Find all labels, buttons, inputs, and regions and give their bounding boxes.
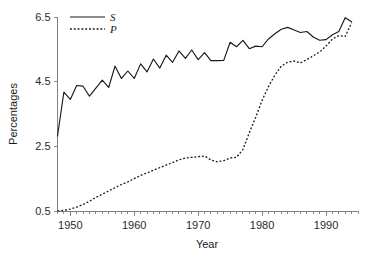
chart-legend: S P xyxy=(70,11,117,35)
data-series-p-line xyxy=(58,23,352,211)
y-axis-tick-group xyxy=(54,17,58,211)
x-axis-tick-label: 1980 xyxy=(250,219,274,231)
x-axis-tick-label: 1970 xyxy=(186,219,210,231)
y-axis-tick-label: 2.5 xyxy=(35,140,50,152)
x-axis-tick-label: 1990 xyxy=(314,219,338,231)
chart-figure: 0.52.54.56.5 19501960197019801990 S P Ye… xyxy=(0,0,372,263)
y-axis-title: Percentages xyxy=(7,83,19,145)
y-axis-tick-label: 4.5 xyxy=(35,75,50,87)
y-axis-label-group: 0.52.54.56.5 xyxy=(35,11,50,217)
x-axis-title: Year xyxy=(196,238,219,250)
data-series-s-line xyxy=(58,18,352,136)
y-axis-tick-label: 0.5 xyxy=(35,205,50,217)
x-axis-tick-label: 1960 xyxy=(122,219,146,231)
x-axis-tick-label: 1950 xyxy=(58,219,82,231)
x-axis-label-group: 19501960197019801990 xyxy=(58,219,338,231)
legend-label-s: S xyxy=(110,11,116,23)
legend-label-p: P xyxy=(109,23,117,35)
chart-plot-area: 0.52.54.56.5 19501960197019801990 S P Ye… xyxy=(0,0,372,263)
y-axis-tick-label: 6.5 xyxy=(35,11,50,23)
